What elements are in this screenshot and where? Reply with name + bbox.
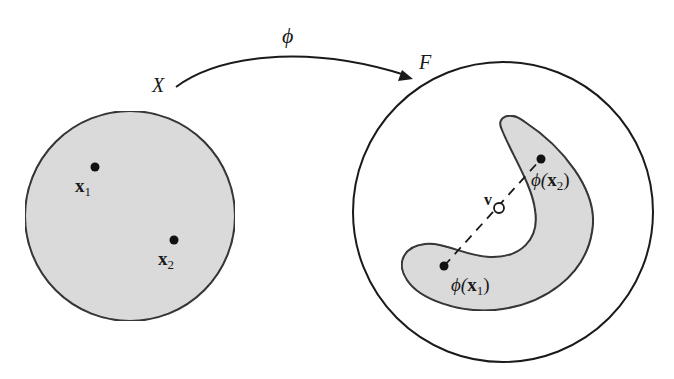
point-phi-x1 <box>440 262 449 271</box>
input-space: X x1 x2 <box>25 74 235 321</box>
mapping-label: ϕ <box>282 23 293 48</box>
point-x2 <box>170 236 179 245</box>
input-space-label: X <box>151 74 165 96</box>
midpoint-v <box>494 203 504 213</box>
point-x1 <box>91 163 100 172</box>
input-space-disk <box>25 111 235 321</box>
kernel-mapping-diagram: X x1 x2 ϕ F ϕ(x2) <box>0 0 674 379</box>
point-phi-x2-label: ϕ(x2) <box>531 169 570 193</box>
feature-space: F ϕ(x2) ϕ(x1) v <box>353 51 653 362</box>
mapping-arrow-curve <box>176 57 405 87</box>
feature-space-label: F <box>418 51 432 73</box>
mapping-arrow: ϕ <box>176 23 413 87</box>
point-phi-x2 <box>537 155 546 164</box>
arrowhead-icon <box>398 70 413 81</box>
point-phi-x1-label: ϕ(x1) <box>451 274 490 298</box>
midpoint-v-label: v <box>484 191 492 208</box>
